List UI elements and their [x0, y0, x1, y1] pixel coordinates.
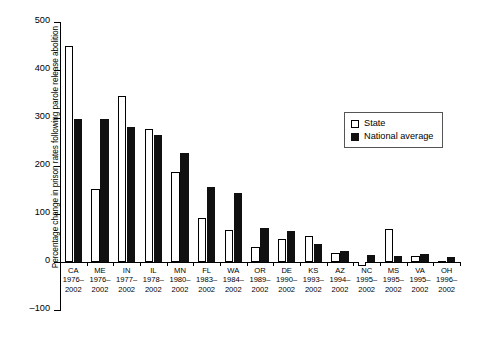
bar-az-national-average	[340, 251, 349, 262]
bar-oh-national-average	[447, 257, 456, 262]
y-axis-tick	[54, 118, 61, 119]
x-label-period-end: 2002	[60, 285, 87, 294]
bar-il-national-average	[154, 135, 163, 262]
x-label-period-start: 1995–	[353, 275, 380, 284]
x-label-period-start: 1980–	[167, 275, 194, 284]
x-label-state-abbr: WA	[220, 266, 247, 275]
x-label-period-start: 1995–	[380, 275, 407, 284]
x-label-state-abbr: NC	[353, 266, 380, 275]
legend-item-national-average: National average	[351, 130, 433, 143]
x-label-period-end: 2002	[113, 285, 140, 294]
y-axis-tick-label: –100	[8, 304, 50, 313]
x-axis-label-fl: FL1983–2002	[193, 266, 220, 294]
x-label-state-abbr: OR	[247, 266, 274, 275]
x-label-period-end: 2002	[433, 285, 460, 294]
bar-fl-national-average	[207, 187, 216, 262]
bar-wa-state	[225, 230, 234, 262]
legend-swatch-filled-square-icon	[351, 133, 359, 141]
x-axis-label-ks: KS1993–2002	[300, 266, 327, 294]
x-label-period-end: 2002	[193, 285, 220, 294]
legend-label-national-average: National average	[364, 132, 433, 141]
x-label-state-abbr: AZ	[327, 266, 354, 275]
bar-nc-national-average	[367, 255, 376, 262]
x-label-state-abbr: IL	[140, 266, 167, 275]
bar-mn-state	[171, 172, 180, 262]
x-label-period-end: 2002	[380, 285, 407, 294]
x-axis-label-oh: OH1996–2002	[433, 266, 460, 294]
x-label-state-abbr: IN	[113, 266, 140, 275]
x-label-period-start: 1984–	[220, 275, 247, 284]
x-label-period-start: 1989–	[247, 275, 274, 284]
x-label-period-start: 1993–	[300, 275, 327, 284]
bar-ks-national-average	[314, 244, 323, 262]
y-axis-tick-label: 0	[8, 256, 50, 265]
x-label-state-abbr: ME	[87, 266, 114, 275]
y-axis-tick-label: 500	[8, 16, 50, 25]
y-axis-tick-label: 200	[8, 160, 50, 169]
x-label-period-end: 2002	[247, 285, 274, 294]
x-label-state-abbr: MN	[167, 266, 194, 275]
bar-fl-state	[198, 218, 207, 262]
legend-swatch-open-square-icon	[351, 120, 359, 128]
x-label-state-abbr: DE	[273, 266, 300, 275]
x-label-state-abbr: MS	[380, 266, 407, 275]
x-label-period-end: 2002	[353, 285, 380, 294]
x-label-period-start: 1994–	[327, 275, 354, 284]
bar-ca-national-average	[74, 119, 83, 262]
x-label-state-abbr: OH	[433, 266, 460, 275]
legend-item-state: State	[351, 117, 433, 130]
x-label-period-start: 1976–	[60, 275, 87, 284]
x-label-period-end: 2002	[140, 285, 167, 294]
bar-wa-national-average	[234, 193, 243, 262]
x-axis-label-az: AZ1994–2002	[327, 266, 354, 294]
x-label-period-start: 1996–	[433, 275, 460, 284]
y-axis-tick	[54, 70, 61, 71]
bar-me-state	[91, 189, 100, 262]
x-label-period-end: 2002	[87, 285, 114, 294]
bar-il-state	[145, 129, 154, 262]
x-axis-line	[60, 262, 460, 263]
x-axis-label-wa: WA1984–2002	[220, 266, 247, 294]
x-label-period-start: 1976–	[87, 275, 114, 284]
bar-or-national-average	[260, 228, 269, 262]
x-label-period-start: 1983–	[193, 275, 220, 284]
x-label-period-end: 2002	[407, 285, 434, 294]
bar-az-state	[331, 253, 340, 262]
x-axis-label-in: IN1977–2002	[113, 266, 140, 294]
bar-va-national-average	[420, 254, 429, 262]
x-label-state-abbr: VA	[407, 266, 434, 275]
x-label-period-start: 1977–	[113, 275, 140, 284]
x-label-state-abbr: KS	[300, 266, 327, 275]
y-axis-tick	[54, 214, 61, 215]
x-axis-label-de: DE1990–2002	[273, 266, 300, 294]
bar-ca-state	[65, 46, 74, 262]
y-axis-tick-label: 300	[8, 112, 50, 121]
y-axis-tick	[54, 310, 61, 311]
x-axis-label-or: OR1989–2002	[247, 266, 274, 294]
x-axis-label-va: VA1995–2002	[407, 266, 434, 294]
x-label-period-end: 2002	[273, 285, 300, 294]
bar-de-state	[278, 239, 287, 262]
bar-mn-national-average	[180, 153, 189, 262]
x-axis-label-nc: NC1995–2002	[353, 266, 380, 294]
bar-ks-state	[305, 236, 314, 262]
y-axis-title: Percentage change in prison rates follow…	[51, 0, 59, 312]
x-label-period-end: 2002	[300, 285, 327, 294]
x-axis-label-il: IL1978–2002	[140, 266, 167, 294]
y-axis-tick-label: 400	[8, 64, 50, 73]
legend-label-state: State	[364, 119, 385, 128]
bar-me-national-average	[100, 119, 109, 262]
x-label-period-end: 2002	[220, 285, 247, 294]
bar-de-national-average	[287, 231, 296, 262]
x-label-period-end: 2002	[327, 285, 354, 294]
x-label-state-abbr: CA	[60, 266, 87, 275]
bar-chart: Percentage change in prison rates follow…	[0, 0, 490, 361]
x-axis-label-ca: CA1976–2002	[60, 266, 87, 294]
y-axis-tick	[54, 166, 61, 167]
bar-or-state	[251, 247, 260, 262]
bar-oh-state	[438, 261, 447, 263]
x-label-state-abbr: FL	[193, 266, 220, 275]
y-axis-tick	[54, 22, 61, 23]
bar-ms-national-average	[394, 256, 403, 262]
bar-ms-state	[385, 229, 394, 262]
